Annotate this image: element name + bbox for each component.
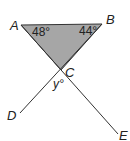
point-label-a: A [9,18,19,33]
geometry-diagram: A B C D E 48° 44° y° [0,0,130,141]
point-label-e: E [119,128,128,141]
point-label-d: D [7,108,16,123]
angle-label-y: y° [52,77,64,91]
angle-label-a: 48° [32,25,50,39]
point-label-b: B [106,12,115,27]
point-label-c: C [65,65,75,80]
angle-label-b: 44° [79,24,97,38]
